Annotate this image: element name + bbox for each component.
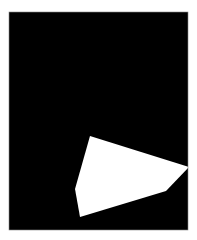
canvas	[0, 0, 197, 240]
